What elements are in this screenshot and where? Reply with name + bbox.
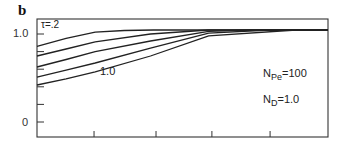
- npe-rest: =100: [282, 67, 307, 79]
- nd-main: N: [263, 93, 271, 105]
- npe-main: N: [263, 67, 271, 79]
- nd-annotation: ND=1.0: [263, 93, 299, 108]
- npe-sub: Pe: [271, 72, 282, 82]
- nd-rest: =1.0: [277, 93, 299, 105]
- npe-annotation: NPe=100: [263, 67, 307, 82]
- tau-top-annotation: τ=.2: [41, 19, 59, 30]
- axis-ticks: [37, 34, 270, 137]
- y-tick-label-1: 1.0: [13, 27, 28, 39]
- panel-label: b: [18, 2, 26, 19]
- y-tick-label-0: 0: [22, 116, 28, 128]
- curve-2: [37, 30, 328, 56]
- tau-bottom-annotation: 1.0: [100, 65, 115, 77]
